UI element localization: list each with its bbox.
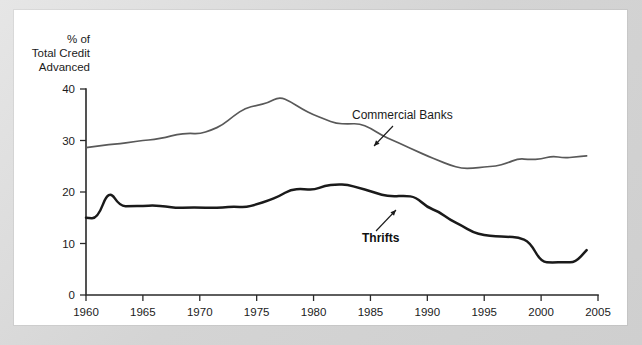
series-annotations: Commercial BanksThrifts [352,108,453,245]
x-tick-label: 1975 [244,306,270,318]
annotation-label: Commercial Banks [352,108,453,122]
y-axis-title-line: Total Credit [32,47,91,59]
y-axis-title-line: % of [67,33,91,45]
y-tick-label: 30 [62,135,75,147]
x-tick-label: 1995 [471,306,497,318]
chart-panel: % ofTotal CreditAdvanced 010203040 19601… [14,10,627,325]
y-axis-title-line: Advanced [39,61,90,73]
x-tick-label: 1985 [358,306,384,318]
y-tick-label: 0 [69,289,75,301]
y-tick-label: 20 [62,186,75,198]
x-axis-ticks: 1960196519701975198019851990199520002005 [73,295,611,318]
chart-figure: % ofTotal CreditAdvanced 010203040 19601… [0,0,642,345]
series-line-commercial-banks [86,98,587,168]
x-tick-label: 2005 [585,306,611,318]
x-tick-label: 1965 [130,306,156,318]
x-tick-label: 1970 [187,306,213,318]
series-line-thrifts [86,184,587,262]
y-tick-label: 40 [62,83,75,95]
x-tick-label: 1990 [415,306,441,318]
line-chart-svg: % ofTotal CreditAdvanced 010203040 19601… [14,10,627,325]
y-axis-title: % ofTotal CreditAdvanced [32,33,91,73]
x-tick-label: 1960 [73,306,99,318]
y-tick-label: 10 [62,238,75,250]
axis-lines [86,89,598,295]
y-axis-ticks: 010203040 [62,83,86,301]
x-tick-label: 1980 [301,306,327,318]
annotation-label: Thrifts [362,231,400,245]
x-tick-label: 2000 [528,306,554,318]
